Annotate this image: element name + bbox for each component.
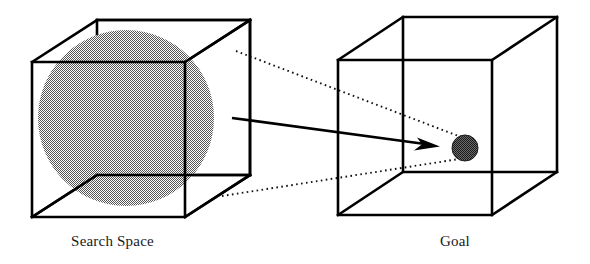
left-cube-group xyxy=(32,20,250,217)
search-space-sphere xyxy=(38,30,214,206)
diagram-svg xyxy=(0,0,590,264)
goal-label: Goal xyxy=(360,233,550,250)
right-cube-connecting-edges xyxy=(338,17,557,215)
right-cube-group xyxy=(338,17,557,215)
search-space-label: Search Space xyxy=(0,233,225,250)
arrow-shaft xyxy=(232,118,425,144)
transition-arrow xyxy=(232,118,440,150)
diagram-canvas: Search Space Goal xyxy=(0,0,590,264)
magnification-guides xyxy=(222,51,461,196)
right-cube-back-face xyxy=(403,17,557,172)
lower-guide-line xyxy=(222,159,459,196)
goal-ball xyxy=(452,135,478,161)
